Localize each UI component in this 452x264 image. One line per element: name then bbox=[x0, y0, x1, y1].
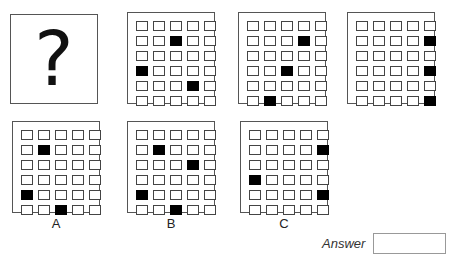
empty-cell bbox=[204, 81, 216, 91]
filled-cell bbox=[170, 36, 182, 46]
empty-cell bbox=[89, 175, 101, 185]
empty-cell bbox=[407, 66, 419, 76]
empty-cell bbox=[55, 175, 67, 185]
empty-cell bbox=[315, 96, 327, 106]
empty-cell bbox=[424, 81, 436, 91]
empty-cell bbox=[187, 96, 199, 106]
answer-input[interactable] bbox=[373, 233, 446, 254]
empty-cell bbox=[136, 175, 148, 185]
empty-cell bbox=[247, 21, 259, 31]
empty-cell bbox=[170, 81, 182, 91]
empty-cell bbox=[266, 145, 278, 155]
empty-cell bbox=[249, 205, 261, 215]
option-a-grid[interactable] bbox=[12, 121, 100, 213]
empty-cell bbox=[38, 160, 50, 170]
filled-cell bbox=[187, 81, 199, 91]
empty-cell bbox=[407, 51, 419, 61]
empty-cell bbox=[204, 66, 216, 76]
empty-cell bbox=[298, 96, 310, 106]
empty-cell bbox=[153, 160, 165, 170]
empty-cell bbox=[266, 190, 278, 200]
empty-cell bbox=[247, 66, 259, 76]
filled-cell bbox=[281, 66, 293, 76]
empty-cell bbox=[153, 66, 165, 76]
option-c-label: C bbox=[240, 216, 328, 231]
empty-cell bbox=[153, 36, 165, 46]
empty-cell bbox=[300, 175, 312, 185]
empty-cell bbox=[390, 96, 402, 106]
empty-cell bbox=[283, 190, 295, 200]
empty-cell bbox=[204, 51, 216, 61]
empty-cell bbox=[298, 51, 310, 61]
empty-cell bbox=[153, 81, 165, 91]
grid-cells bbox=[356, 21, 436, 106]
filled-cell bbox=[249, 175, 261, 185]
empty-cell bbox=[356, 66, 368, 76]
empty-cell bbox=[300, 145, 312, 155]
empty-cell bbox=[373, 66, 385, 76]
empty-cell bbox=[187, 145, 199, 155]
empty-cell bbox=[136, 36, 148, 46]
empty-cell bbox=[187, 130, 199, 140]
empty-cell bbox=[356, 21, 368, 31]
sequence-grid-1 bbox=[127, 12, 215, 104]
empty-cell bbox=[170, 145, 182, 155]
empty-cell bbox=[204, 205, 216, 215]
empty-cell bbox=[283, 160, 295, 170]
empty-cell bbox=[373, 21, 385, 31]
empty-cell bbox=[390, 66, 402, 76]
empty-cell bbox=[170, 96, 182, 106]
empty-cell bbox=[38, 130, 50, 140]
empty-cell bbox=[136, 96, 148, 106]
empty-cell bbox=[170, 175, 182, 185]
empty-cell bbox=[249, 145, 261, 155]
filled-cell bbox=[38, 145, 50, 155]
empty-cell bbox=[298, 21, 310, 31]
empty-cell bbox=[356, 36, 368, 46]
empty-cell bbox=[317, 205, 329, 215]
empty-cell bbox=[72, 205, 84, 215]
empty-cell bbox=[187, 66, 199, 76]
filled-cell bbox=[153, 145, 165, 155]
filled-cell bbox=[317, 145, 329, 155]
empty-cell bbox=[264, 81, 276, 91]
empty-cell bbox=[187, 51, 199, 61]
empty-cell bbox=[390, 81, 402, 91]
empty-cell bbox=[72, 160, 84, 170]
grid-cells bbox=[136, 130, 216, 215]
empty-cell bbox=[315, 36, 327, 46]
empty-cell bbox=[136, 130, 148, 140]
empty-cell bbox=[136, 160, 148, 170]
filled-cell bbox=[170, 205, 182, 215]
empty-cell bbox=[407, 21, 419, 31]
empty-cell bbox=[317, 160, 329, 170]
filled-cell bbox=[187, 160, 199, 170]
filled-cell bbox=[136, 190, 148, 200]
empty-cell bbox=[72, 130, 84, 140]
grid-cells bbox=[136, 21, 216, 106]
empty-cell bbox=[281, 96, 293, 106]
empty-cell bbox=[136, 51, 148, 61]
empty-cell bbox=[204, 21, 216, 31]
empty-cell bbox=[187, 21, 199, 31]
filled-cell bbox=[264, 96, 276, 106]
grid-cells bbox=[247, 21, 327, 106]
empty-cell bbox=[38, 205, 50, 215]
empty-cell bbox=[153, 130, 165, 140]
empty-cell bbox=[21, 160, 33, 170]
option-c-grid[interactable] bbox=[240, 121, 328, 213]
option-b-grid[interactable] bbox=[127, 121, 215, 213]
empty-cell bbox=[373, 36, 385, 46]
empty-cell bbox=[89, 190, 101, 200]
grid-cells bbox=[249, 130, 329, 215]
empty-cell bbox=[153, 190, 165, 200]
empty-cell bbox=[204, 145, 216, 155]
empty-cell bbox=[55, 130, 67, 140]
empty-cell bbox=[89, 130, 101, 140]
empty-cell bbox=[72, 190, 84, 200]
empty-cell bbox=[136, 205, 148, 215]
filled-cell bbox=[136, 66, 148, 76]
empty-cell bbox=[72, 145, 84, 155]
empty-cell bbox=[424, 21, 436, 31]
empty-cell bbox=[315, 51, 327, 61]
